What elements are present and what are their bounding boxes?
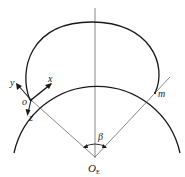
point-m-label: m xyxy=(158,88,165,99)
x-axis-arrow xyxy=(31,83,52,100)
z-axis-label: z xyxy=(28,112,33,123)
geometry-diagram: x y z o m β OE xyxy=(0,0,185,177)
center-label-main: O xyxy=(88,162,96,174)
angle-beta-label: β xyxy=(97,131,103,142)
y-axis-label: y xyxy=(9,77,15,88)
center-label-subscript: E xyxy=(96,168,100,175)
center-label: OE xyxy=(88,162,100,175)
point-o-label: o xyxy=(22,96,27,107)
x-axis-label: x xyxy=(47,73,53,84)
point-m xyxy=(154,92,156,94)
large-circle-arc xyxy=(14,86,180,153)
radius-line-o xyxy=(31,100,95,157)
